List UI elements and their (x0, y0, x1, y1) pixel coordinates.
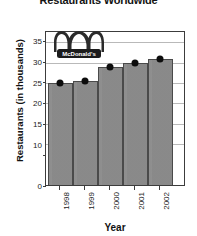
y-tick-label-0: 0 (38, 182, 42, 191)
x-tick-mark-2000 (109, 186, 110, 190)
y-tick-label-35: 35 (33, 37, 42, 46)
x-tick-mark-2001 (134, 186, 135, 190)
y-tick-label-25: 25 (33, 78, 42, 87)
y-axis-title: Restaurants (in thousands) (14, 26, 25, 176)
x-axis-title: Year (45, 222, 185, 233)
x-tick-mark-1998 (59, 186, 60, 190)
chart-title: Restaurants Worldwide (0, 0, 197, 6)
data-point-1998 (57, 79, 64, 86)
chart-screenshot: Restaurants Worldwide Restaurants (in th… (0, 0, 197, 236)
mcdonalds-logo: McDonald's (54, 31, 104, 59)
x-tick-mark-1999 (84, 186, 85, 190)
bar-1999 (73, 81, 98, 185)
data-point-2002 (157, 55, 164, 62)
bar-2000 (98, 67, 123, 185)
y-tick-mark-0 (43, 186, 46, 187)
data-point-2000 (107, 63, 114, 70)
y-tick-label-20: 20 (33, 99, 42, 108)
x-tick-mark-2002 (159, 186, 160, 190)
bar-1998 (48, 83, 73, 185)
x-tick-label-1998: 1998 (62, 192, 71, 210)
bar-2001 (123, 63, 148, 185)
y-tick-label-10: 10 (33, 140, 42, 149)
mcdonalds-wordmark: McDonald's (62, 51, 96, 57)
x-tick-label-1999: 1999 (87, 192, 96, 210)
y-axis-tick-labels: 0 10 15 20 25 30 35 (26, 31, 42, 186)
x-tick-label-2002: 2002 (162, 192, 171, 210)
data-point-1999 (82, 77, 89, 84)
bar-2002 (148, 59, 173, 185)
y-tick-label-15: 15 (33, 120, 42, 129)
x-tick-label-2001: 2001 (137, 192, 146, 210)
y-tick-label-30: 30 (33, 58, 42, 67)
x-tick-label-2000: 2000 (112, 192, 121, 210)
data-point-2001 (132, 60, 139, 67)
